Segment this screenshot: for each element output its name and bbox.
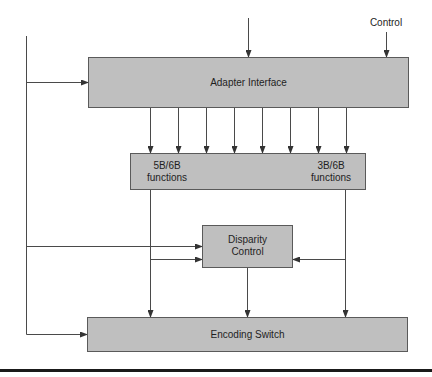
disparity-control-label: Disparity Control (203, 234, 292, 258)
5b6b-title: 5B/6B (135, 160, 199, 172)
disparity-line1: Disparity (203, 234, 292, 246)
block-diagram: Control Adapter Interface 5B/6B function… (0, 0, 432, 377)
control-input-label: Control (362, 17, 410, 28)
adapter-interface-box: Adapter Interface (88, 57, 409, 108)
disparity-line2: Control (203, 246, 292, 258)
5b6b-functions-label: 5B/6B functions (135, 160, 199, 184)
3b6b-subtitle: functions (299, 172, 363, 184)
adapter-interface-label: Adapter Interface (89, 77, 408, 89)
encoding-switch-box: Encoding Switch (87, 317, 408, 352)
disparity-control-box: Disparity Control (202, 225, 293, 268)
3b6b-functions-label: 3B/6B functions (299, 160, 363, 184)
3b6b-title: 3B/6B (299, 160, 363, 172)
encoding-switch-label: Encoding Switch (88, 329, 407, 341)
functions-box: 5B/6B functions 3B/6B functions (130, 153, 366, 190)
5b6b-subtitle: functions (135, 172, 199, 184)
bottom-rule-divider (0, 369, 432, 372)
